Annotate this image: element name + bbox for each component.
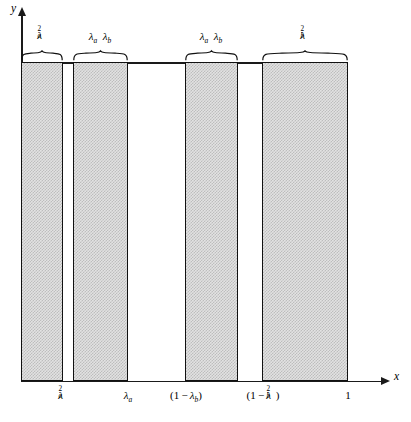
x-tick-label-4: (1 − λ2b)	[247, 390, 280, 401]
brace-label-3-symbol-b: λb	[214, 30, 223, 42]
brace-3	[185, 50, 238, 61]
brace-label-1: λ2a	[37, 30, 46, 41]
brace-label-3-symbol-a: λa	[200, 30, 209, 42]
bar-4	[262, 62, 348, 381]
brace-label-2-symbol-b: λb	[103, 30, 112, 42]
x-tick-label-3: (1 − λb)	[170, 390, 202, 404]
y-axis-label: y	[11, 3, 16, 15]
brace-2	[73, 50, 128, 61]
y-axis-arrow-icon	[18, 7, 26, 16]
x-tick-label-1: λ2a	[58, 390, 67, 401]
brace-1	[21, 50, 63, 61]
bar-2	[73, 62, 128, 381]
x-tick-label-2: λa	[124, 390, 133, 404]
x-tick-label-5: 1	[345, 390, 351, 401]
brace-label-4: λ2b	[300, 30, 309, 41]
bar-3	[185, 62, 238, 381]
interval-partition-figure: y x λ2a λa λb λa λb λ2b	[0, 0, 411, 422]
brace-label-2: λa λb	[89, 31, 112, 45]
x-axis-arrow-icon	[381, 377, 390, 385]
brace-label-2-symbol-a: λa	[89, 30, 98, 42]
bar-1	[21, 62, 63, 381]
x-axis-label: x	[394, 371, 399, 383]
brace-label-4-symbol: λ2b	[300, 30, 309, 41]
brace-4	[262, 50, 348, 61]
brace-label-3: λa λb	[200, 31, 223, 45]
brace-label-1-symbol: λ2a	[37, 30, 46, 41]
